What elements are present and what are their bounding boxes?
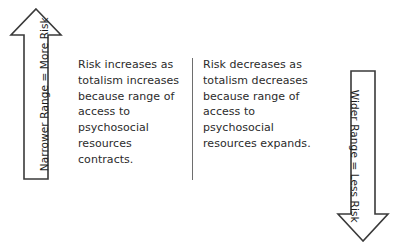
arrow-down-label-wrapper: Wider Range = Less Risk [334,68,392,244]
arrow-down-label: Wider Range = Less Risk [350,89,377,222]
left-text-block: Risk increases as totalism increases bec… [78,57,182,168]
risk-totalism-diagram: Narrower Range = More Risk Risk increase… [0,0,396,249]
right-text-block: Risk decreases as totalism decreases bec… [203,57,325,152]
vertical-divider [192,58,193,180]
arrow-up-label-wrapper: Narrower Range = More Risk [9,6,63,182]
arrow-up-label: Narrower Range = More Risk [23,17,50,171]
